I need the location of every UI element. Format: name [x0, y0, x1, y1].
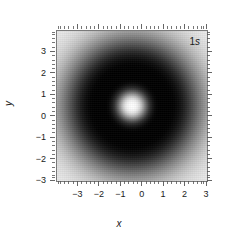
ytick-label: −3 — [26, 176, 46, 185]
xtick-label: 0 — [132, 190, 152, 199]
xtick-label: −3 — [67, 190, 87, 199]
ytick-label: 3 — [26, 47, 46, 56]
ytick-label: 2 — [26, 69, 46, 78]
plot-panel: 1s — [56, 30, 208, 182]
xtick-label: −2 — [89, 190, 109, 199]
density-heatmap — [57, 31, 207, 181]
ytick-label: 1 — [26, 90, 46, 99]
ytick-label: −2 — [26, 155, 46, 164]
xtick-label: 1 — [153, 190, 173, 199]
orbital-letter: s — [195, 36, 200, 47]
ytick-label: 0 — [26, 112, 46, 121]
x-axis-title: x — [0, 218, 238, 229]
xtick-label: 2 — [175, 190, 195, 199]
xtick-label: 3 — [196, 190, 216, 199]
figure-1s-orbital-density-plot: 1s — [0, 0, 238, 243]
ytick-label: −1 — [26, 133, 46, 142]
xtick-label: −1 — [110, 190, 130, 199]
y-axis-title: y — [3, 101, 14, 106]
radial-density-gradient — [57, 31, 207, 181]
top-minor-ticks — [58, 26, 204, 29]
top-major-ticks — [77, 24, 206, 29]
left-minor-ticks — [52, 32, 55, 178]
orbital-annotation-label: 1s — [189, 37, 200, 47]
left-major-ticks — [50, 51, 55, 180]
